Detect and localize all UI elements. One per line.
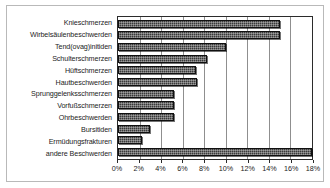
- bar-row: [118, 101, 312, 110]
- y-axis-label: Tend(ovag)initiden: [12, 42, 115, 51]
- y-axis-category-labels: Knieschmerzen Wirbelsäulenbeschwerden Te…: [12, 16, 115, 160]
- y-axis-label: Sprunggelenksschmerzen: [12, 89, 115, 98]
- x-axis: 0%2%4%6%8%10%12%14%16%18%: [117, 160, 313, 176]
- y-axis-label: andere Beschwerden: [12, 149, 115, 158]
- x-axis-tick-label: 18%: [306, 164, 320, 173]
- x-axis-tick-label: 2%: [134, 164, 144, 173]
- x-axis-tick: [117, 160, 118, 163]
- bar-row: [118, 78, 312, 87]
- bar: [118, 125, 150, 133]
- chart-figure: Knieschmerzen Wirbelsäulenbeschwerden Te…: [0, 0, 330, 188]
- bar: [118, 101, 174, 109]
- bar: [118, 66, 196, 74]
- y-axis-label: Vorfußschmerzen: [12, 101, 115, 110]
- bar-row: [118, 136, 312, 145]
- y-axis-label: Schulterschmerzen: [12, 54, 115, 63]
- y-axis-label: Knieschmerzen: [12, 18, 115, 27]
- x-axis-tick-label: 0%: [112, 164, 122, 173]
- y-axis-label: Bursitiden: [12, 125, 115, 134]
- x-axis-tick: [248, 160, 249, 163]
- x-axis-tick-label: 8%: [199, 164, 209, 173]
- bar-row: [118, 31, 312, 40]
- bar-row: [118, 113, 312, 122]
- x-axis-tick: [161, 160, 162, 163]
- y-axis-label: Ohrbeschwerden: [12, 113, 115, 122]
- y-axis-label: Ermüdungsfrakturen: [12, 137, 115, 146]
- bar: [118, 20, 280, 28]
- x-axis-tick-label: 10%: [219, 164, 233, 173]
- x-axis-tick-label: 6%: [177, 164, 187, 173]
- x-axis-tick-label: 12%: [240, 164, 254, 173]
- bar: [118, 148, 312, 156]
- x-axis-tick: [226, 160, 227, 163]
- bar-row: [118, 124, 312, 133]
- x-axis-tick-label: 14%: [262, 164, 276, 173]
- y-axis-label: Wirbelsäulenbeschwerden: [12, 30, 115, 39]
- plot-area: [117, 16, 313, 160]
- bar: [118, 136, 142, 144]
- x-axis-tick: [291, 160, 292, 163]
- bar: [118, 78, 197, 86]
- x-axis-tick: [269, 160, 270, 163]
- bar-row: [118, 148, 312, 157]
- x-axis-tick-label: 16%: [284, 164, 298, 173]
- bar: [118, 43, 226, 51]
- x-axis-tick-label: 4%: [155, 164, 165, 173]
- bar-row: [118, 66, 312, 75]
- bar-row: [118, 54, 312, 63]
- bar: [118, 31, 280, 39]
- bar-row: [118, 43, 312, 52]
- x-axis-tick: [139, 160, 140, 163]
- y-axis-label: Hautbeschwerden: [12, 78, 115, 87]
- chart-body: Knieschmerzen Wirbelsäulenbeschwerden Te…: [12, 11, 318, 177]
- bar-series: [118, 17, 312, 159]
- x-axis-tick: [313, 160, 314, 163]
- bar: [118, 113, 174, 121]
- y-axis-label: Hüftschmerzen: [12, 66, 115, 75]
- bar-row: [118, 19, 312, 28]
- bar: [118, 55, 207, 63]
- x-axis-tick: [204, 160, 205, 163]
- bar-row: [118, 89, 312, 98]
- x-axis-tick: [182, 160, 183, 163]
- bar: [118, 90, 174, 98]
